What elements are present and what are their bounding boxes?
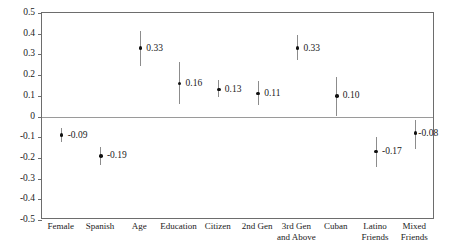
x-axis-category-label: 3rd Gen and Above [277,221,316,242]
x-axis-category-label: Cuban [324,221,348,232]
x-axis: FemaleSpanishAgeEducationCitizen2nd Gen3… [41,221,434,251]
y-tick-label: 0.2 [23,68,35,81]
y-tick-label: -0.5 [20,213,35,226]
zero-reference-line [42,117,433,118]
data-point-marker[interactable] [99,154,103,158]
y-tick-mark [38,158,42,159]
x-axis-category-label: Female [47,221,74,232]
data-point-marker[interactable] [414,131,418,135]
coefficient-plot-figure: 0.50.40.30.20.10-0.1-0.2-0.3-0.4-0.5-0.0… [0,0,449,251]
y-tick-mark [38,117,42,118]
data-point-value-label: 0.10 [343,90,360,101]
data-point-marker[interactable] [296,46,300,50]
y-tick-label: -0.3 [20,172,35,185]
y-tick-mark [38,34,42,35]
y-tick-label: -0.2 [20,151,35,164]
y-tick-label: 0 [30,110,35,123]
data-point-marker[interactable] [374,150,378,154]
data-point-value-label: -0.17 [382,146,402,157]
y-tick-label: -0.4 [20,192,35,205]
y-tick-label: -0.1 [20,130,35,143]
data-point-value-label: 0.13 [225,84,242,95]
data-point-value-label: 0.11 [264,88,280,99]
data-point-value-label: 0.33 [146,43,163,54]
y-tick-mark [38,13,42,14]
data-point-marker[interactable] [178,82,182,86]
y-tick-mark [38,179,42,180]
y-tick-mark [38,54,42,55]
data-point-value-label: -0.19 [107,150,127,161]
y-tick-label: 0.4 [23,27,35,40]
x-axis-category-label: Mixed Friends [401,221,428,242]
y-tick-label: 0.3 [23,47,35,60]
x-axis-category-label: 2nd Gen [242,221,273,232]
y-tick-mark [38,199,42,200]
data-point-marker[interactable] [60,133,64,137]
data-point-value-label: 0.16 [186,78,203,89]
x-axis-category-label: Age [132,221,147,232]
y-tick-mark [38,96,42,97]
x-axis-category-label: Citizen [205,221,231,232]
x-axis-category-label: Spanish [86,221,115,232]
data-point-value-label: -0.09 [68,130,88,141]
plot-area: 0.50.40.30.20.10-0.1-0.2-0.3-0.4-0.5-0.0… [41,12,434,219]
data-point-marker[interactable] [139,46,143,50]
x-axis-category-label: Latino Friends [362,221,389,242]
y-tick-mark [38,75,42,76]
data-point-marker[interactable] [335,94,339,98]
y-tick-label: 0.1 [23,89,35,102]
y-tick-label: 0.5 [23,6,35,19]
data-point-value-label: -0.08 [418,128,438,139]
y-tick-mark [38,137,42,138]
data-point-marker[interactable] [217,88,221,92]
data-point-marker[interactable] [256,92,260,96]
data-point-value-label: 0.33 [303,43,320,54]
x-axis-category-label: Education [160,221,197,232]
